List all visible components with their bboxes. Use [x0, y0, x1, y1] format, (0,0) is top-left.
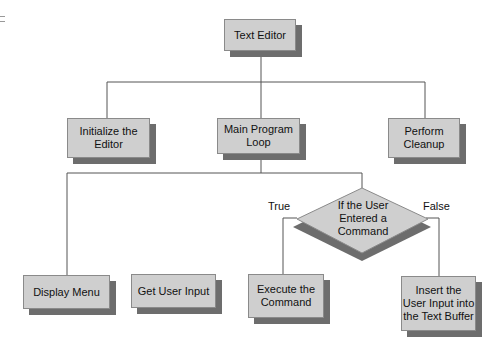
node-label: Insert the User Input into the Text Buff… — [403, 284, 475, 323]
false-label: False — [423, 200, 450, 212]
node-main-program-loop: Main Program Loop — [217, 118, 300, 154]
node-label: Display Menu — [33, 286, 100, 299]
node-label: Get User Input — [138, 285, 210, 298]
true-label: True — [268, 200, 290, 212]
node-initialize-editor: Initialize the Editor — [67, 118, 150, 158]
node-label: Perform Cleanup — [399, 125, 449, 151]
node-label: Main Program Loop — [221, 123, 297, 149]
node-display-menu: Display Menu — [23, 275, 110, 309]
node-label: Text Editor — [234, 29, 286, 42]
node-label: Initialize the Editor — [74, 125, 144, 151]
decision-label: If the User Entered a Command — [330, 199, 396, 238]
node-label: Execute the Command — [256, 283, 316, 309]
node-text-editor: Text Editor — [224, 19, 296, 51]
node-execute-command: Execute the Command — [248, 274, 324, 318]
node-insert-user-input: Insert the User Input into the Text Buff… — [401, 276, 476, 331]
node-get-user-input: Get User Input — [131, 274, 216, 308]
node-perform-cleanup: Perform Cleanup — [388, 118, 460, 158]
